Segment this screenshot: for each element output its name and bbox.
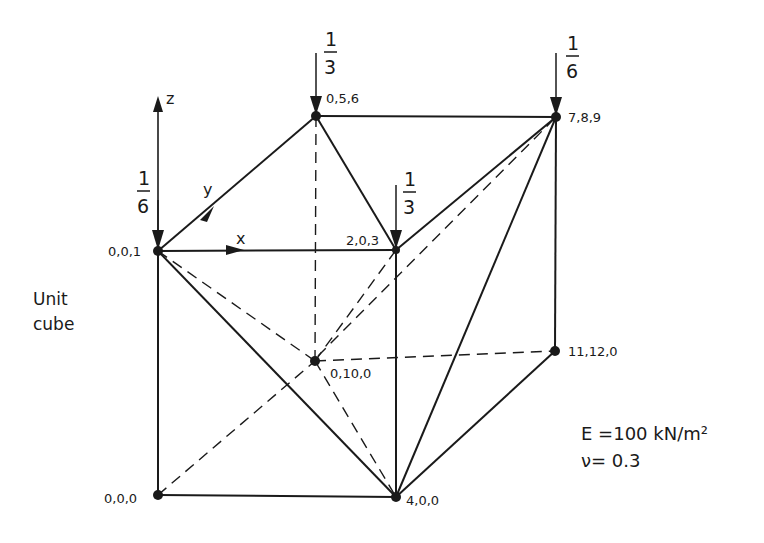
unit-cube-label-line2: cube: [33, 314, 74, 334]
fraction-bars: [137, 52, 579, 192]
node-400: [391, 492, 401, 502]
edge-000-400: [158, 495, 396, 497]
hidden-edges: [158, 116, 556, 497]
edge-001-203: [158, 250, 396, 251]
node-789: [551, 112, 561, 122]
x-axis-label: x: [236, 229, 245, 248]
unit-cube-diagram: 0,0,1 0,5,6 7,8,9 2,0,3 0,10,0 11,12,0 0…: [0, 0, 764, 543]
node-203: [392, 246, 400, 254]
z-axis-arrowhead-icon: [153, 96, 163, 112]
load-056-numerator: 1: [325, 28, 337, 50]
node-label-789: 7,8,9: [568, 110, 601, 125]
y-axis-label: y: [203, 180, 212, 199]
unit-cube-label-line1: Unit: [33, 289, 68, 309]
edge-000-0100: [158, 361, 315, 495]
node-label-0100: 0,10,0: [330, 366, 371, 381]
load-001-denominator: 6: [137, 195, 149, 217]
solid-edges: [158, 116, 556, 497]
edge-0100-400: [315, 361, 396, 497]
edge-056-203: [316, 116, 396, 250]
nodes: [153, 111, 561, 502]
load-789-denominator: 6: [566, 60, 578, 82]
node-001: [153, 246, 163, 256]
node-label-001: 0,0,1: [108, 244, 141, 259]
node-label-400: 4,0,0: [406, 493, 439, 508]
edge-056-789: [316, 116, 556, 117]
z-axis-label: z: [166, 89, 174, 108]
node-056: [311, 111, 321, 121]
load-001-numerator: 1: [138, 167, 150, 189]
load-789-numerator: 1: [567, 32, 579, 54]
edge-0100-203: [315, 250, 396, 361]
poisson-ratio-label: ν= 0.3: [581, 450, 640, 471]
axes: [153, 96, 244, 255]
node-label-056: 0,5,6: [326, 91, 359, 106]
edge-789-11120: [555, 117, 556, 351]
youngs-modulus-label: E =100 kN/m²: [581, 423, 708, 444]
edge-789-400: [396, 117, 556, 497]
node-000: [153, 490, 163, 500]
edge-11120-400: [396, 351, 555, 497]
node-label-203: 2,0,3: [346, 233, 379, 248]
node-11120: [550, 346, 560, 356]
edge-0100-11120: [315, 351, 555, 361]
load-203-denominator: 3: [403, 196, 415, 218]
load-203-numerator: 1: [404, 168, 416, 190]
node-0100: [310, 356, 320, 366]
edge-001-0100: [158, 251, 315, 361]
node-label-000: 0,0,0: [104, 491, 137, 506]
load-056-denominator: 3: [324, 56, 336, 78]
edge-203-789: [396, 117, 556, 250]
node-label-11120: 11,12,0: [568, 344, 618, 359]
edge-056-0100: [315, 116, 316, 361]
load-arrows: [158, 53, 556, 240]
